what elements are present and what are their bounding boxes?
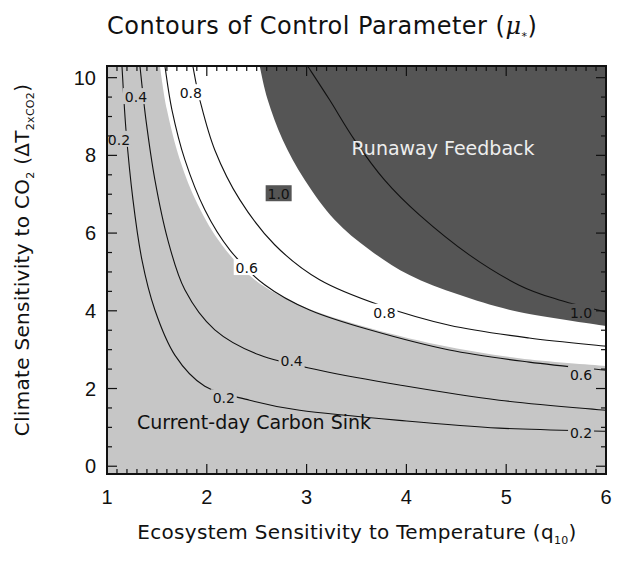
- contour-label-1-0: 1.0: [268, 186, 290, 202]
- y-tick-label: 6: [85, 222, 96, 244]
- x-tick-label: 4: [401, 486, 412, 508]
- x-tick-label: 5: [501, 486, 512, 508]
- x-tick-label: 6: [600, 486, 611, 508]
- contour-label-0-8: 0.8: [373, 305, 395, 321]
- x-tick-label: 2: [201, 486, 212, 508]
- y-tick-label: 4: [85, 300, 96, 322]
- runaway-feedback-label: Runaway Feedback: [352, 137, 535, 159]
- y-tick-label: 2: [85, 378, 96, 400]
- contour-label-1-0: 1.0: [570, 305, 592, 321]
- current-carbon-sink-label: Current-day Carbon Sink: [137, 411, 371, 433]
- contour-label-0-2: 0.2: [213, 390, 235, 406]
- x-tick-label: 3: [301, 486, 312, 508]
- contour-label-0-2: 0.2: [108, 132, 130, 148]
- y-tick-label: 10: [74, 67, 96, 89]
- contour-label-0-6: 0.6: [236, 260, 258, 276]
- y-tick-label: 8: [85, 144, 96, 166]
- contour-label-0-8: 0.8: [180, 85, 202, 101]
- y-tick-label: 0: [85, 455, 96, 477]
- contour-plot: 0.20.20.20.40.40.60.60.80.81.01.0 Curren…: [0, 0, 638, 569]
- contour-label-0-4: 0.4: [125, 89, 147, 105]
- x-tick-label: 1: [101, 486, 112, 508]
- contour-label-0-2: 0.2: [570, 425, 592, 441]
- contour-label-0-6: 0.6: [570, 367, 592, 383]
- contour-label-0-4: 0.4: [280, 353, 302, 369]
